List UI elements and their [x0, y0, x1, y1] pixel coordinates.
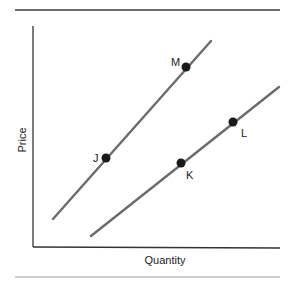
price-quantity-chart: Price Quantity JMKL: [0, 0, 296, 284]
point-label-j: J: [93, 152, 99, 164]
series-1: JM: [53, 41, 211, 219]
point-m: [182, 63, 191, 72]
point-j: [102, 154, 111, 163]
point-k: [177, 159, 186, 168]
point-label-m: M: [171, 56, 180, 68]
x-axis: [33, 247, 280, 248]
series-2: KL: [91, 87, 279, 236]
x-axis-label: Quantity: [145, 254, 186, 266]
point-l: [229, 118, 238, 127]
point-label-k: K: [186, 169, 194, 181]
y-axis-label: Price: [16, 127, 28, 152]
point-label-l: L: [241, 127, 247, 139]
series-layer: JMKL: [53, 41, 279, 236]
